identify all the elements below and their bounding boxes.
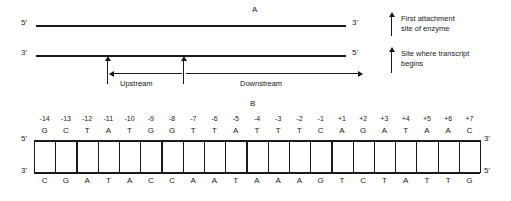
base-pair-rung bbox=[225, 140, 226, 173]
base-pair-rung bbox=[246, 140, 247, 173]
position-number: -10 bbox=[119, 115, 141, 122]
panel-b-bottom-left-end: 3' bbox=[21, 167, 27, 175]
panel-a-letter: A bbox=[252, 6, 257, 14]
top-strand-base: A bbox=[437, 126, 459, 135]
base-pair-rung bbox=[268, 140, 269, 173]
transcript-start-site-arrow bbox=[183, 60, 184, 84]
top-strand-base: T bbox=[288, 126, 310, 135]
position-number: +5 bbox=[416, 115, 438, 122]
legend-arrow-up-icon-2 bbox=[391, 51, 392, 73]
base-pair-rung bbox=[140, 140, 141, 173]
top-strand-base: A bbox=[97, 126, 119, 135]
panel-b-letter: B bbox=[250, 100, 255, 108]
position-number: +4 bbox=[395, 115, 417, 122]
position-number: -2 bbox=[288, 115, 310, 122]
bottom-strand-base: C bbox=[352, 176, 374, 185]
bottom-strand-base: A bbox=[395, 176, 417, 185]
bottom-strand-base: T bbox=[416, 176, 438, 185]
legend-item-2-line1: Site where transcript bbox=[401, 49, 469, 59]
base-pair-rung bbox=[374, 140, 375, 173]
bottom-strand-base: G bbox=[458, 176, 480, 185]
bottom-strand-base: A bbox=[267, 176, 289, 185]
position-number: +1 bbox=[331, 115, 353, 122]
top-strand-base: A bbox=[416, 126, 438, 135]
top-strand-base: T bbox=[246, 126, 268, 135]
panel-a-bottom-right-end: 5' bbox=[352, 49, 358, 57]
position-number: -4 bbox=[246, 115, 268, 122]
position-number: +6 bbox=[437, 115, 459, 122]
top-strand-base: T bbox=[76, 126, 98, 135]
base-pair-rung bbox=[353, 140, 354, 173]
panel-b-bottom-backbone bbox=[34, 172, 480, 174]
bottom-strand-base: T bbox=[331, 176, 353, 185]
position-number: -6 bbox=[204, 115, 226, 122]
ladder-right-edge bbox=[480, 140, 481, 173]
bottom-strand-base: A bbox=[288, 176, 310, 185]
bottom-strand-base: C bbox=[161, 176, 183, 185]
position-number: -13 bbox=[55, 115, 77, 122]
panel-b-top-right-end: 3' bbox=[484, 135, 490, 143]
top-strand-base: T bbox=[204, 126, 226, 135]
bottom-strand-base: A bbox=[76, 176, 98, 185]
figure-root: A 5' 3' 3' 5' Upstream Downstream First … bbox=[0, 0, 511, 201]
base-pair-rung bbox=[55, 140, 56, 173]
position-number: -11 bbox=[97, 115, 119, 122]
position-number: -3 bbox=[267, 115, 289, 122]
panel-a-bottom-left-end: 3' bbox=[21, 49, 27, 57]
bottom-strand-base: A bbox=[119, 176, 141, 185]
top-strand-base: A bbox=[373, 126, 395, 135]
position-number: -8 bbox=[161, 115, 183, 122]
top-strand-base: G bbox=[352, 126, 374, 135]
panel-a-top-strand-line bbox=[36, 25, 346, 27]
bottom-strand-base: T bbox=[373, 176, 395, 185]
legend-item-2-line2: begins bbox=[401, 59, 423, 69]
position-number: +3 bbox=[373, 115, 395, 122]
position-number: -9 bbox=[140, 115, 162, 122]
bottom-strand-base: C bbox=[34, 176, 56, 185]
downstream-label: Downstream bbox=[240, 80, 282, 88]
base-pair-rung bbox=[98, 140, 99, 173]
top-strand-base: A bbox=[225, 126, 247, 135]
base-pair-rung bbox=[310, 140, 311, 173]
base-pair-rung bbox=[289, 140, 290, 173]
position-number: +7 bbox=[458, 115, 480, 122]
downstream-arrow bbox=[186, 73, 362, 74]
base-pair-rung bbox=[395, 140, 396, 173]
top-strand-base: C bbox=[458, 126, 480, 135]
position-number: +2 bbox=[352, 115, 374, 122]
base-pair-rung bbox=[183, 140, 184, 173]
top-strand-base: T bbox=[395, 126, 417, 135]
upstream-label: Upstream bbox=[120, 80, 153, 88]
top-strand-base: T bbox=[182, 126, 204, 135]
bottom-strand-base: T bbox=[437, 176, 459, 185]
legend-item-1-line1: First attachment bbox=[401, 14, 455, 24]
base-pair-rung bbox=[438, 140, 439, 173]
top-strand-base: G bbox=[161, 126, 183, 135]
base-pair-rung bbox=[459, 140, 460, 173]
upstream-arrow bbox=[110, 73, 182, 74]
panel-a-bottom-strand-line bbox=[36, 55, 346, 57]
bottom-strand-base: T bbox=[97, 176, 119, 185]
base-pair-rung bbox=[119, 140, 120, 173]
panel-a-top-left-end: 5' bbox=[21, 19, 27, 27]
base-pair-rung bbox=[76, 140, 77, 173]
panel-b-top-left-end: 5' bbox=[21, 135, 27, 143]
panel-b-top-backbone bbox=[34, 140, 480, 142]
position-number: -5 bbox=[225, 115, 247, 122]
bottom-strand-base: A bbox=[246, 176, 268, 185]
bottom-strand-base: T bbox=[225, 176, 247, 185]
ladder-left-edge bbox=[34, 140, 35, 173]
base-pair-rung bbox=[416, 140, 417, 173]
position-number: -14 bbox=[34, 115, 56, 122]
bottom-strand-base: G bbox=[310, 176, 332, 185]
top-strand-base: C bbox=[55, 126, 77, 135]
base-pair-rung bbox=[331, 140, 332, 173]
top-strand-base: G bbox=[140, 126, 162, 135]
top-strand-base: T bbox=[119, 126, 141, 135]
position-number: -7 bbox=[182, 115, 204, 122]
legend-item-1-line2: site of enzyme bbox=[401, 24, 449, 34]
position-number: -12 bbox=[76, 115, 98, 122]
panel-a-top-right-end: 3' bbox=[352, 19, 358, 27]
bottom-strand-base: C bbox=[140, 176, 162, 185]
bottom-strand-base: A bbox=[182, 176, 204, 185]
